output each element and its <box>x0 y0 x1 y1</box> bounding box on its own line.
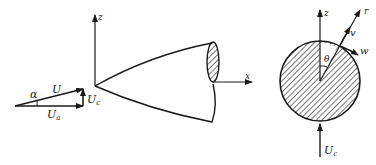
tangential-velocity-label: w <box>360 45 369 56</box>
body-upper-contour <box>95 43 212 86</box>
resultant-velocity-arrow <box>15 89 83 106</box>
body-z-label: z <box>97 12 103 22</box>
cross-section <box>280 10 360 157</box>
incoming-flow-label: Uc <box>324 144 337 158</box>
section-z-label: z <box>323 8 329 18</box>
body-lower-contour <box>95 84 215 122</box>
crossflow-velocity-label: Uc <box>87 93 100 107</box>
section-r-label: r <box>364 6 369 16</box>
body-x-label: x <box>245 71 250 81</box>
resultant-velocity-label: U <box>52 83 62 96</box>
radial-velocity-arrow <box>340 27 350 45</box>
diagram-canvas: α U Ua Uc z x z r v w θ Uc <box>0 0 376 165</box>
velocity-triangle <box>15 89 83 106</box>
angle-alpha-label: α <box>30 88 38 101</box>
theta-label: θ <box>324 54 330 64</box>
body-base-section <box>207 42 219 82</box>
radial-velocity-label: v <box>350 27 356 38</box>
body-view <box>95 15 252 122</box>
axial-velocity-label: Ua <box>47 108 60 122</box>
